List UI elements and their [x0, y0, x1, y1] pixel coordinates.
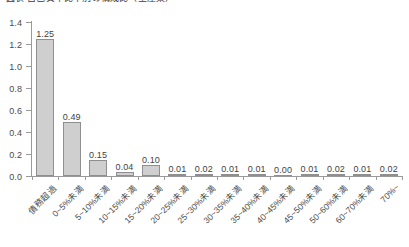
bar-value-label: 0.01 — [168, 164, 186, 174]
chart-title: 図表 自己資本比率別の構成比（全産業） — [6, 0, 306, 3]
bar-value-label: 0.15 — [89, 150, 107, 160]
bar: 0.49 — [63, 122, 81, 176]
x-axis-tick — [191, 176, 192, 180]
bar-value-label: 0.04 — [116, 162, 134, 172]
y-axis-tick-label: 1.4 — [9, 18, 22, 28]
bar: 1.25 — [36, 39, 54, 177]
x-axis-category-label: 70%~ — [378, 182, 401, 205]
bar: 0.00 — [274, 175, 292, 176]
plot-area: 1.250.490.150.040.100.010.020.010.010.00… — [32, 22, 402, 176]
x-axis-tick — [402, 176, 403, 180]
bar: 0.01 — [168, 174, 186, 176]
bar-value-label: 0.02 — [380, 164, 398, 174]
x-axis-tick — [111, 176, 112, 180]
bar: 0.02 — [380, 174, 398, 176]
bar-value-label: 0.01 — [221, 164, 239, 174]
bar-value-label: 0.02 — [327, 164, 345, 174]
x-axis-tick — [349, 176, 350, 180]
bar: 0.01 — [221, 174, 239, 176]
y-axis-tick-label: 0.0 — [9, 172, 22, 182]
bar-value-label: 0.01 — [301, 164, 319, 174]
bar: 0.10 — [142, 165, 160, 176]
x-axis-tick — [58, 176, 59, 180]
bar: 0.01 — [248, 174, 266, 176]
bar-value-label: 0.49 — [63, 112, 81, 122]
x-axis-tick — [164, 176, 165, 180]
bar: 0.04 — [116, 172, 134, 176]
x-axis-tick — [270, 176, 271, 180]
x-axis-tick — [296, 176, 297, 180]
y-axis-tick-label: 0.2 — [9, 150, 22, 160]
bar: 0.02 — [327, 174, 345, 176]
bar: 0.15 — [89, 160, 107, 177]
bar-value-label: 0.01 — [353, 164, 371, 174]
bar-value-label: 0.00 — [274, 165, 292, 175]
x-axis-category-label-text: 70%~ — [378, 182, 401, 205]
bar: 0.01 — [301, 174, 319, 176]
x-axis-tick — [376, 176, 377, 180]
bar-value-label: 0.01 — [248, 164, 266, 174]
bar: 0.02 — [195, 174, 213, 176]
x-axis-tick — [217, 176, 218, 180]
bar-chart: 図表 自己資本比率別の構成比（全産業） 0.00.20.40.60.81.01.… — [0, 0, 409, 247]
bar-value-label: 0.02 — [195, 164, 213, 174]
x-axis-tick — [32, 176, 33, 180]
bar-value-label: 1.25 — [36, 29, 54, 39]
x-axis-tick — [138, 176, 139, 180]
y-axis-tick-label: 1.0 — [9, 62, 22, 72]
x-axis-tick — [85, 176, 86, 180]
x-axis-tick — [323, 176, 324, 180]
bar-value-label: 0.10 — [142, 155, 160, 165]
bar: 0.01 — [353, 174, 371, 176]
y-axis-tick-label: 1.2 — [9, 40, 22, 50]
y-axis-tick-label: 0.4 — [9, 128, 22, 138]
y-axis-tick-label: 0.8 — [9, 84, 22, 94]
x-axis-tick — [243, 176, 244, 180]
y-axis-tick-label: 0.6 — [9, 106, 22, 116]
